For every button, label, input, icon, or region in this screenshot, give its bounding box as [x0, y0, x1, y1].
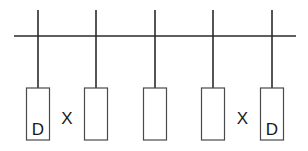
gap-mark-x: X	[237, 109, 248, 128]
drop-5: D	[261, 10, 284, 140]
drop-2	[85, 10, 108, 140]
drop-label: D	[32, 120, 44, 139]
gap-mark-x: X	[61, 109, 72, 128]
drop-box	[144, 88, 167, 140]
drop-box	[202, 88, 225, 140]
drop-label: D	[266, 120, 278, 139]
drop-3	[144, 10, 167, 140]
drop-4	[202, 10, 225, 140]
drop-1: D	[27, 10, 50, 140]
bus-diagram: DD XX	[0, 0, 308, 151]
drop-box	[85, 88, 108, 140]
